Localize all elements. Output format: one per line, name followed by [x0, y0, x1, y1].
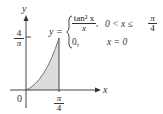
x-axis-arrow-icon — [95, 88, 101, 93]
case1-condition: 0 < x ≤ — [105, 20, 133, 30]
case1-expression: tan² x x — [72, 14, 96, 33]
shaded-area — [26, 38, 59, 90]
case2-condition: x = 0 — [107, 38, 127, 48]
origin-label: 0 — [17, 94, 22, 104]
function-lhs: y = — [49, 27, 63, 37]
x-axis-label: x — [103, 85, 107, 95]
case1-comma: , — [96, 19, 98, 28]
y-tick-label: 4 π — [14, 29, 24, 48]
case1-condition-fraction: π 4 — [148, 14, 157, 33]
y-axis-label: y — [22, 4, 26, 14]
case2-value: 0, — [72, 38, 79, 48]
y-axis-arrow-icon — [24, 15, 29, 21]
x-tick-label: π 4 — [54, 94, 64, 113]
